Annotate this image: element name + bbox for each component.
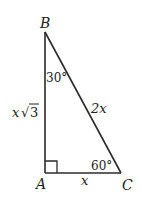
side-label-ab-variable: x [12,105,20,120]
side-label-ab: x √ 3 [12,104,39,120]
vertex-label-c: C [122,177,133,193]
side-label-ac: x [81,173,89,188]
right-angle-marker [45,161,57,173]
vertex-label-a: A [34,176,46,192]
angle-label-c: 60° [91,159,112,173]
side-label-ab-radicand: 3 [30,105,38,120]
side-label-bc: 2x [90,101,107,116]
triangle-diagram: B A C 30° 60° 2x x x √ 3 [0,0,142,199]
radical-sign: √ [21,105,30,120]
angle-label-b: 30° [46,71,67,85]
side-bc [45,32,121,173]
vertex-label-b: B [39,15,50,31]
